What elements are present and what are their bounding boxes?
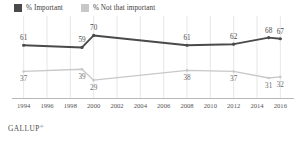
data-point-marker — [92, 34, 95, 37]
data-point-label: 70 — [90, 24, 97, 32]
x-tick-label: 2010 — [204, 102, 217, 110]
data-point-marker — [92, 79, 95, 82]
x-tick-label: 1998 — [64, 102, 77, 110]
x-tick-label: 2006 — [157, 102, 170, 110]
data-point-label: 61 — [183, 34, 190, 42]
x-tick-label: 1996 — [40, 102, 53, 110]
gallup-attribution: GALLUP® — [8, 122, 44, 134]
data-point-marker — [279, 37, 282, 40]
data-point-label: 68 — [265, 27, 272, 35]
data-point-marker — [232, 70, 235, 73]
data-point-marker — [81, 68, 84, 71]
data-point-marker — [80, 46, 83, 49]
data-point-marker — [185, 44, 188, 47]
data-point-label: 62 — [230, 33, 237, 41]
legend-label-not-important: % Not that important — [93, 4, 155, 12]
series-line — [24, 35, 281, 47]
data-point-marker — [267, 36, 270, 39]
series-lines — [22, 34, 282, 82]
x-tick-label: 1994 — [17, 102, 30, 110]
legend-swatch-dark-icon — [14, 4, 22, 12]
data-point-marker — [22, 44, 25, 47]
gridlines — [24, 16, 281, 98]
data-point-marker — [232, 43, 235, 46]
data-point-label: 67 — [277, 28, 284, 36]
legend-label-important: % Important — [26, 4, 63, 12]
legend-swatch-light-icon — [81, 4, 89, 12]
x-tick-label: 2014 — [250, 102, 263, 110]
x-tick-label: 2004 — [134, 102, 147, 110]
series-line — [24, 69, 281, 80]
data-point-label: 38 — [183, 74, 190, 82]
plot-svg — [0, 16, 302, 98]
registered-mark-icon: ® — [40, 124, 44, 129]
legend-item-not-important: % Not that important — [81, 4, 155, 12]
x-tick-label: 2016 — [274, 102, 287, 110]
gallup-brand: GALLUP — [8, 124, 40, 133]
x-tick-label: 2008 — [180, 102, 193, 110]
chart-legend: % Important % Not that important — [14, 2, 155, 14]
data-point-marker — [22, 70, 25, 73]
x-tick-label: 2000 — [87, 102, 100, 110]
data-point-label: 31 — [265, 82, 272, 90]
data-point-label: 32 — [277, 81, 284, 89]
x-axis: 1994199619982000200220042006200820102012… — [0, 98, 302, 118]
data-point-label: 61 — [20, 34, 27, 42]
gallup-line-chart: % Important % Not that important 6159706… — [0, 0, 302, 141]
x-tick-label: 2002 — [110, 102, 123, 110]
x-tick-label: 2012 — [227, 102, 240, 110]
data-point-label: 29 — [90, 84, 97, 92]
data-point-label: 59 — [78, 36, 85, 44]
data-point-label: 37 — [230, 75, 237, 83]
data-point-label: 39 — [78, 73, 85, 81]
legend-item-important: % Important — [14, 4, 63, 12]
data-point-marker — [267, 77, 270, 80]
data-point-marker — [186, 69, 189, 72]
x-axis-line — [12, 98, 294, 99]
data-point-marker — [279, 76, 282, 79]
plot-area: 6159706162686737392938373132 — [0, 16, 302, 98]
data-point-label: 37 — [20, 75, 27, 83]
